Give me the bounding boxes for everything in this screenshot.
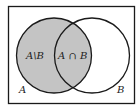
set-b-label: B — [116, 84, 124, 95]
venn-diagram: A\B A ∩ B A B — [0, 0, 139, 110]
set-a-label: A — [18, 84, 26, 95]
difference-label: A\B — [25, 50, 44, 61]
intersection-label: A ∩ B — [57, 50, 87, 61]
